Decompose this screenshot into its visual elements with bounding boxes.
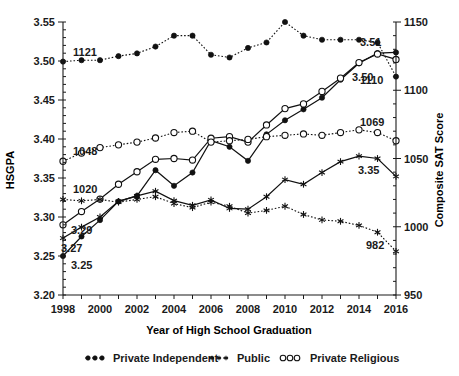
data-point-open-circle <box>319 132 325 138</box>
data-label: 1020 <box>73 183 97 195</box>
legend-item-private-religious: Private Religious <box>280 352 399 364</box>
data-point-open-circle <box>171 155 177 161</box>
chart-container: 3.203.253.303.353.403.453.503.5595010001… <box>0 0 459 376</box>
data-point-filled-circle <box>319 95 324 100</box>
legend-label: Public <box>237 352 270 364</box>
data-point-open-circle <box>300 101 306 107</box>
data-point-open-circle <box>134 139 140 145</box>
data-label: 982 <box>366 239 384 251</box>
data-point-open-circle <box>171 129 177 135</box>
series-private-independent-hsgpa <box>60 50 398 259</box>
x-tick-label: 2016 <box>384 303 408 315</box>
data-label: 3.27 <box>61 242 82 254</box>
data-point-filled-circle <box>153 168 158 173</box>
series-public-sat <box>60 193 399 254</box>
y-tick-label-right: 1100 <box>404 84 428 96</box>
y-tick-label-left: 3.50 <box>34 55 55 67</box>
x-axis-title: Year of High School Graduation <box>146 324 312 336</box>
data-point-filled-circle <box>190 33 195 38</box>
data-point-filled-circle <box>301 33 306 38</box>
x-tick-label: 1998 <box>51 303 75 315</box>
data-point-open-circle <box>97 144 103 150</box>
data-point-open-circle <box>245 136 251 142</box>
data-point-open-circle <box>374 51 380 57</box>
data-label: 1110 <box>360 74 383 86</box>
data-point-open-circle <box>356 127 362 133</box>
data-point-open-circle <box>208 139 214 145</box>
data-point-star <box>301 211 307 218</box>
data-point-star <box>79 197 85 204</box>
data-point-filled-circle <box>171 183 176 188</box>
y-tick-label-left: 3.55 <box>34 16 55 28</box>
data-point-open-circle <box>226 138 232 144</box>
y-tick-label-left: 3.25 <box>34 250 55 262</box>
data-point-filled-circle <box>190 170 195 175</box>
data-point-open-circle <box>374 129 380 135</box>
data-point-open-circle <box>152 135 158 141</box>
data-point-filled-circle <box>171 33 176 38</box>
data-point-filled-circle <box>319 37 324 42</box>
data-point-filled-circle <box>79 58 84 63</box>
series-layer <box>60 19 399 258</box>
data-point-open-circle <box>337 129 343 135</box>
data-point-open-circle <box>189 128 195 134</box>
data-point-open-circle <box>115 181 121 187</box>
data-label: 3.35 <box>358 164 379 176</box>
data-label: 3.25 <box>71 259 92 271</box>
data-point-filled-circle <box>134 51 139 56</box>
data-point-open-circle <box>78 208 84 214</box>
series-line <box>63 156 396 238</box>
y-tick-label-left: 3.35 <box>34 172 55 184</box>
legend-item-private-independent: Private Independent <box>85 352 218 364</box>
data-point-open-circle <box>280 355 286 361</box>
y-tick-label-right: 1050 <box>404 153 428 165</box>
y-axis-title-left: HSGPA <box>4 151 16 189</box>
data-point-filled-circle <box>116 54 121 59</box>
legend-item-public: Public <box>209 352 270 364</box>
x-tick-label: 2014 <box>347 303 372 315</box>
hsgpa-sat-trend-chart: 3.203.253.303.353.403.453.503.5595010001… <box>0 0 459 376</box>
y-axis-title-right: Composite SAT Score <box>433 113 445 228</box>
data-point-open-circle <box>337 75 343 81</box>
data-point-open-circle <box>263 122 269 128</box>
data-point-filled-circle <box>208 52 213 57</box>
y-tick-label-left: 3.20 <box>34 289 55 301</box>
legend-label: Private Religious <box>310 352 399 364</box>
x-tick-label: 2008 <box>236 303 260 315</box>
series-line <box>63 52 396 256</box>
data-point-filled-circle <box>264 40 269 45</box>
y-tick-label-right: 1000 <box>404 221 428 233</box>
x-tick-label: 2000 <box>88 303 112 315</box>
data-point-filled-circle <box>245 45 250 50</box>
y-tick-label-left: 3.40 <box>34 133 55 145</box>
data-label: 3.51 <box>360 36 381 48</box>
x-tick-label: 2010 <box>273 303 297 315</box>
data-point-filled-circle <box>245 158 250 163</box>
data-point-filled-circle <box>227 144 232 149</box>
y-tick-label-left: 3.45 <box>34 94 55 106</box>
data-point-filled-circle <box>97 58 102 63</box>
data-point-star <box>208 199 214 206</box>
legend-label: Private Independent <box>113 352 218 364</box>
annotations-layer: 1121104810203.293.273.253.513.5011101069… <box>61 36 384 271</box>
x-tick-label: 2002 <box>125 303 149 315</box>
data-point-filled-circle <box>282 19 287 24</box>
data-point-open-circle <box>134 169 140 175</box>
data-point-open-circle <box>356 59 362 65</box>
data-label: 1048 <box>73 145 97 157</box>
x-tick-label: 2004 <box>162 303 187 315</box>
chart-legend: Private IndependentPublicPrivate Religio… <box>85 352 399 364</box>
x-tick-label: 2006 <box>199 303 223 315</box>
series-line <box>63 22 396 77</box>
data-point-open-circle <box>115 142 121 148</box>
data-point-filled-circle <box>282 118 287 123</box>
data-point-open-circle <box>300 131 306 137</box>
data-point-filled-circle <box>338 37 343 42</box>
data-point-star <box>375 229 381 236</box>
data-point-star <box>319 217 325 224</box>
y-tick-label-right: 1150 <box>404 16 428 28</box>
series-private-independent-sat <box>60 19 398 79</box>
data-point-star <box>319 169 325 176</box>
data-point-filled-circle <box>153 44 158 49</box>
data-label: 1069 <box>360 116 384 128</box>
